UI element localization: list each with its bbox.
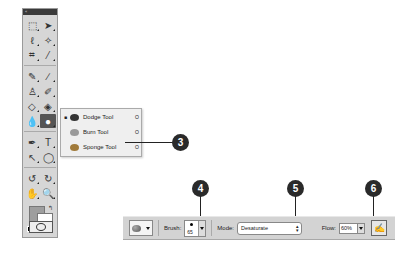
brush-tool-button[interactable]: ∕ [40, 69, 56, 83]
callout-3-leader [125, 142, 173, 143]
mode-select[interactable]: Desaturate ▴▾ [237, 222, 302, 235]
healing-brush-tool-icon: ✎ [28, 71, 36, 82]
tools-panel: « ⬚➤ℓ✧⌗⁄✎∕♙✐◇◈💧●✒T↖◯↺↻✋🔍 ↰ [22, 8, 58, 238]
3d-rotate-tool-icon: ↺ [28, 173, 36, 184]
shape-tool-button[interactable]: ◯ [40, 150, 56, 164]
burn-tool-icon [70, 129, 79, 136]
brush-size-value: 65 [187, 229, 193, 235]
divider [24, 167, 56, 168]
pen-tool-button[interactable]: ✒ [24, 135, 40, 149]
mode-label: Mode: [217, 225, 234, 231]
hand-tool-button[interactable]: ✋ [24, 186, 40, 200]
shortcut-key: O [133, 129, 141, 135]
flow-input[interactable]: 60% [339, 223, 358, 234]
callout-6: 6 [365, 180, 382, 197]
marquee-tool-button[interactable]: ⬚ [24, 18, 40, 32]
mode-value: Desaturate [241, 225, 268, 231]
history-brush-tool-button[interactable]: ✐ [40, 84, 56, 98]
flow-slider-button[interactable] [358, 223, 365, 234]
eyedropper-tool-icon: ⁄ [47, 50, 49, 61]
flyout-item-label: Sponge Tool [83, 144, 133, 150]
sponge-tool-icon [70, 144, 79, 151]
shortcut-key: O [133, 144, 141, 150]
move-tool-icon: ➤ [44, 20, 52, 31]
shortcut-key: O [133, 114, 141, 120]
zoom-tool-button[interactable]: 🔍 [40, 186, 56, 200]
pen-tool-icon: ✒ [28, 137, 36, 148]
chevron-down-icon [200, 227, 204, 230]
airbrush-toggle-button[interactable]: ✍ [371, 220, 387, 236]
dodge-tool-icon [70, 114, 79, 121]
clone-stamp-tool-icon: ♙ [28, 86, 37, 97]
brush-tool-icon: ∕ [47, 71, 49, 82]
dodge-tool-flyout-menu: ■ Dodge Tool O Burn Tool O Sponge Tool O [60, 108, 142, 157]
dodge-tool-button[interactable]: ● [40, 114, 56, 128]
quick-mask-button[interactable] [29, 221, 53, 233]
3d-rotate-tool-button[interactable]: ↺ [24, 171, 40, 185]
sponge-tool-icon [132, 225, 141, 232]
chevron-right-icon [359, 227, 363, 230]
paint-bucket-tool-icon: ◈ [44, 101, 52, 112]
flow-value: 60% [341, 225, 352, 231]
magic-wand-tool-icon: ✧ [44, 35, 52, 46]
crop-tool-icon: ⌗ [29, 49, 35, 61]
updown-arrows-icon: ▴▾ [296, 224, 299, 232]
flyout-item-label: Dodge Tool [83, 114, 133, 120]
clone-stamp-tool-button[interactable]: ♙ [24, 84, 40, 98]
magic-wand-tool-button[interactable]: ✧ [40, 33, 56, 47]
3d-orbit-tool-icon: ↻ [44, 173, 52, 184]
flyout-item-burn-tool[interactable]: Burn Tool O [61, 125, 141, 139]
dodge-tool-icon: ● [45, 116, 51, 127]
callout-5: 5 [287, 180, 304, 197]
divider [211, 220, 212, 236]
flow-label: Flow: [322, 225, 336, 231]
eraser-tool-button[interactable]: ◇ [24, 99, 40, 113]
type-tool-icon: T [45, 137, 51, 148]
divider [24, 131, 56, 132]
flyout-item-dodge-tool[interactable]: ■ Dodge Tool O [61, 110, 141, 124]
lasso-tool-icon: ℓ [30, 35, 33, 46]
divider [24, 65, 56, 66]
eraser-tool-icon: ◇ [28, 101, 36, 112]
swap-colors-icon[interactable]: ↰ [48, 204, 53, 211]
tool-grid: ⬚➤ℓ✧⌗⁄✎∕♙✐◇◈💧●✒T↖◯↺↻✋🔍 [23, 15, 57, 200]
callout-3: 3 [172, 134, 189, 151]
healing-brush-tool-button[interactable]: ✎ [24, 69, 40, 83]
history-brush-tool-icon: ✐ [44, 86, 52, 97]
brush-picker[interactable]: 65 [184, 220, 206, 237]
quick-mask-icon [36, 223, 46, 231]
crop-tool-button[interactable]: ⌗ [24, 48, 40, 62]
type-tool-button[interactable]: T [40, 135, 56, 149]
eyedropper-tool-button[interactable]: ⁄ [40, 48, 56, 62]
paint-bucket-tool-button[interactable]: ◈ [40, 99, 56, 113]
path-selection-tool-button[interactable]: ↖ [24, 150, 40, 164]
flyout-item-label: Burn Tool [83, 129, 133, 135]
lasso-tool-button[interactable]: ℓ [24, 33, 40, 47]
tool-options-bar: Brush: 65 Mode: Desaturate ▴▾ Flow: 60% … [123, 216, 395, 240]
shape-tool-icon: ◯ [43, 152, 54, 163]
path-selection-tool-icon: ↖ [28, 152, 36, 163]
marquee-tool-icon: ⬚ [28, 20, 37, 31]
callout-6-leader [373, 196, 374, 218]
brush-dropdown-button[interactable] [198, 221, 205, 236]
brush-tip-icon [190, 223, 193, 226]
blur-tool-button[interactable]: 💧 [24, 114, 40, 128]
tool-preset-picker[interactable] [129, 220, 153, 236]
3d-orbit-tool-button[interactable]: ↻ [40, 171, 56, 185]
chevron-down-icon [146, 227, 150, 230]
move-tool-button[interactable]: ➤ [40, 18, 56, 32]
brush-label: Brush: [164, 225, 181, 231]
callout-4: 4 [192, 180, 209, 197]
divider [158, 220, 159, 236]
airbrush-icon: ✍ [374, 223, 385, 233]
